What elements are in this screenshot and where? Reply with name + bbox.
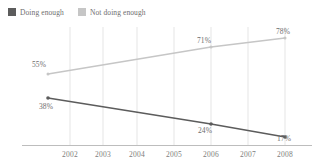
data-point-not-doing-enough-2002	[47, 73, 50, 76]
x-tick-label-2003: 2003	[95, 150, 111, 159]
value-label-doing-enough-2008: 17%	[277, 134, 291, 143]
value-label-not-doing-enough-2006: 71%	[197, 36, 211, 45]
x-tick-label-2006: 2006	[203, 150, 219, 159]
data-point-doing-enough-2002	[46, 96, 50, 100]
value-label-doing-enough-2006: 24%	[198, 126, 212, 135]
data-point-not-doing-enough-2006	[210, 46, 213, 49]
value-label-doing-enough-2002: 38%	[39, 102, 53, 111]
gridlines	[70, 27, 285, 145]
x-tick-label-2008: 2008	[277, 150, 293, 159]
data-point-not-doing-enough-2008	[284, 37, 287, 40]
plot-svg	[0, 0, 323, 166]
series-line-doing-enough	[48, 98, 285, 137]
x-tick-label-2004: 2004	[129, 150, 145, 159]
x-tick-label-2007: 2007	[240, 150, 256, 159]
x-tick-label-2002: 2002	[62, 150, 78, 159]
x-tick-label-2005: 2005	[166, 150, 182, 159]
value-label-not-doing-enough-2008: 78%	[276, 27, 290, 36]
series-line-not-doing-enough	[48, 38, 285, 74]
value-label-not-doing-enough-2002: 55%	[32, 60, 46, 69]
line-chart: Doing enough Not doing enough	[0, 0, 323, 166]
plot-area: 55% 71% 78% 38% 24% 17% 2002 2003 2004 2…	[0, 0, 323, 166]
